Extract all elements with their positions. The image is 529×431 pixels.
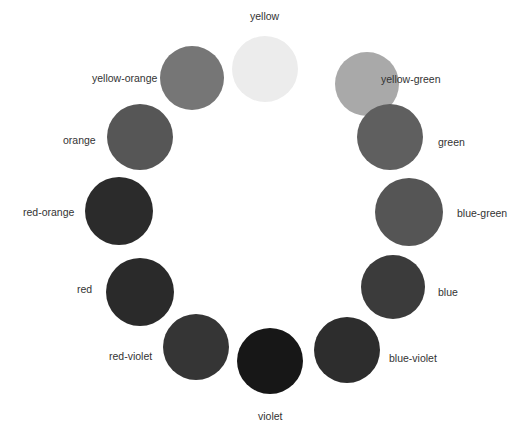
swatch-red-orange: [85, 177, 153, 245]
swatch-label-yellow: yellow: [250, 10, 279, 22]
swatch-label-orange: orange: [63, 134, 96, 146]
color-wheel: yellowyellow-greengreenblue-greenblueblu…: [0, 0, 529, 431]
swatch-blue: [361, 255, 425, 319]
swatch-label-red: red: [77, 283, 92, 295]
swatch-label-blue: blue: [438, 286, 458, 298]
swatch-label-red-orange: red-orange: [23, 206, 74, 218]
swatch-green: [357, 104, 423, 170]
swatch-label-red-violet: red-violet: [109, 350, 152, 362]
swatch-red-violet: [163, 314, 229, 380]
swatch-label-yellow-green: yellow-green: [381, 73, 441, 85]
swatch-label-yellow-orange: yellow-orange: [92, 72, 157, 84]
swatch-red: [106, 258, 174, 326]
swatch-blue-green: [375, 178, 443, 246]
swatch-yellow: [232, 36, 298, 102]
swatch-label-blue-green: blue-green: [457, 207, 507, 219]
swatch-label-green: green: [438, 136, 465, 148]
swatch-violet: [237, 328, 303, 394]
swatch-label-violet: violet: [258, 410, 283, 422]
swatch-blue-violet: [314, 317, 380, 383]
swatch-orange: [107, 104, 173, 170]
swatch-yellow-orange: [160, 46, 224, 110]
swatch-label-blue-violet: blue-violet: [389, 352, 437, 364]
